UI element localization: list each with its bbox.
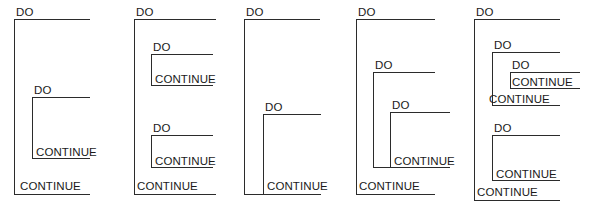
do-loop-nesting-figure: DODOCONTINUECONTINUEDODOCONTINUEDOCONTIN… (0, 0, 593, 214)
statement-label-continue: CONTINUE (512, 76, 573, 88)
statement-label-do: DO (494, 39, 511, 51)
panel-5: DODODOCONTINUECONTINUEDOCONTINUECONTINUE (0, 0, 593, 214)
statement-label-continue: CONTINUE (477, 186, 538, 198)
statement-label-do: DO (512, 59, 529, 71)
statement-label-do: DO (476, 6, 493, 18)
statement-label-continue: CONTINUE (496, 168, 557, 180)
statement-label-do: DO (494, 122, 511, 134)
statement-label-continue: CONTINUE (489, 93, 550, 105)
